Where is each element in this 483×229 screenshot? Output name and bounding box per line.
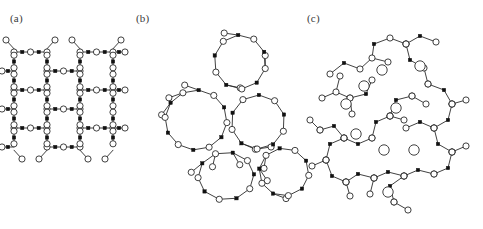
oxygen-node <box>306 172 312 178</box>
oxygen-node <box>44 109 50 115</box>
cation-node <box>257 93 260 96</box>
oxygen-node <box>349 111 355 117</box>
oxygen-node <box>195 175 201 181</box>
oxygen-node <box>317 127 323 133</box>
cation-node <box>78 60 81 63</box>
cation-node <box>332 124 335 127</box>
oxygen-node <box>229 126 235 132</box>
modifier-cation-node <box>415 61 425 71</box>
oxygen-node <box>220 38 226 44</box>
oxygen-node <box>280 128 286 134</box>
modifier-cation-node <box>377 65 387 75</box>
oxygen-node <box>27 87 33 93</box>
oxygen-node <box>110 71 116 77</box>
oxygen-node <box>77 71 83 77</box>
cation-node <box>278 147 281 150</box>
cation-node <box>87 126 90 129</box>
oxygen-node <box>60 106 66 112</box>
cation-node <box>117 126 120 129</box>
oxygen-node <box>44 84 50 90</box>
oxygen-node <box>77 109 83 115</box>
oxygen-node <box>292 147 298 153</box>
cation-node <box>262 50 265 53</box>
oxygen-node <box>52 37 58 43</box>
cation-node <box>231 151 234 154</box>
cation-node <box>282 113 285 116</box>
oxygen-node <box>433 39 439 45</box>
oxygen-node <box>431 125 437 131</box>
oxygen-node <box>11 122 17 128</box>
panel-label-a: (a) <box>10 12 23 25</box>
cation-node <box>12 117 15 120</box>
oxygen-node <box>272 98 278 104</box>
oxygen-node <box>369 55 375 61</box>
oxygen-node <box>431 171 437 177</box>
oxygen-node <box>180 90 186 96</box>
oxygen-node <box>261 165 267 171</box>
oxygen-node <box>401 117 407 123</box>
cation-node <box>78 136 81 139</box>
oxygen-node <box>19 156 25 162</box>
oxygen-node <box>449 101 455 107</box>
oxygen-node <box>44 71 50 77</box>
cation-node <box>416 168 419 171</box>
oxygen-node <box>369 135 375 141</box>
cation-node <box>169 101 172 104</box>
cation-node <box>192 148 195 151</box>
cation-node <box>220 136 223 139</box>
oxygen-node <box>0 106 5 112</box>
oxygen-node <box>110 122 116 128</box>
oxygen-node <box>118 37 124 43</box>
cation-node <box>231 111 234 114</box>
cation-node <box>6 145 9 148</box>
oxygen-node <box>423 101 429 107</box>
cation-node <box>45 79 48 82</box>
oxygen-node <box>27 125 33 131</box>
cation-node <box>356 142 359 145</box>
oxygen-node <box>333 89 339 95</box>
cation-node <box>111 117 114 120</box>
oxygen-node <box>409 93 415 99</box>
oxygen-node <box>254 146 260 152</box>
oxygen-node <box>110 109 116 115</box>
cation-node <box>45 60 48 63</box>
cation-node <box>328 142 331 145</box>
cation-node <box>342 61 345 64</box>
oxygen-node <box>11 90 17 96</box>
oxygen-node <box>212 151 218 157</box>
cation-node <box>37 88 40 91</box>
oxygen-node <box>85 156 91 162</box>
cation-node <box>78 79 81 82</box>
oxygen-node <box>239 86 245 92</box>
oxygen-node <box>60 144 66 150</box>
oxygen-node <box>44 122 50 128</box>
panel-label-c: (c) <box>307 12 320 25</box>
oxygen-node <box>36 156 42 162</box>
oxygen-node <box>77 103 83 109</box>
oxygen-node <box>77 65 83 71</box>
oxygen-node <box>247 186 253 192</box>
cation-node <box>103 126 106 129</box>
oxygen-node <box>60 68 66 74</box>
cation-node <box>258 167 261 170</box>
oxygen-node <box>11 71 17 77</box>
oxygen-node <box>77 128 83 134</box>
oxygen-node <box>122 125 128 131</box>
oxygen-node <box>463 97 469 103</box>
cation-node <box>394 98 397 101</box>
oxygen-node <box>221 30 227 36</box>
cation-node <box>78 98 81 101</box>
oxygen-node <box>188 169 194 175</box>
oxygen-node <box>175 141 181 147</box>
cation-node <box>6 69 9 72</box>
panel-label-b: (b) <box>136 12 150 25</box>
oxygen-node <box>327 71 333 77</box>
oxygen-node <box>213 69 219 75</box>
modifier-cation-node <box>391 103 401 113</box>
modifier-cation-node <box>409 145 419 155</box>
cation-node <box>21 88 24 91</box>
oxygen-node <box>323 157 329 163</box>
cation-node <box>6 107 9 110</box>
oxygen-node <box>11 109 17 115</box>
oxygen-node <box>387 35 393 41</box>
